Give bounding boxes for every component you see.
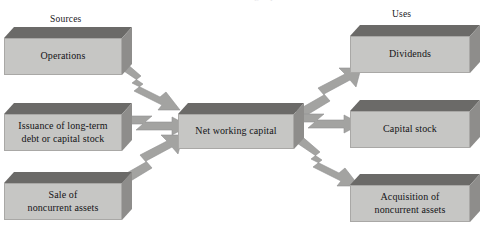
box-label-line: Dividends	[389, 48, 431, 60]
box-top-face	[178, 103, 304, 114]
box-front-face: Dividends	[350, 36, 470, 73]
box-front-face: Acquisition of noncurrent assets	[350, 185, 470, 222]
box-capital-stock[interactable]: Capital stock	[350, 100, 480, 148]
box-front-face: Capital stock	[350, 111, 470, 148]
box-top-face	[4, 103, 132, 114]
box-label-line: Sale of	[28, 189, 99, 201]
box-top-face	[350, 174, 480, 185]
box-top-face	[350, 100, 480, 111]
diagram-canvas: Exhibit · Sources and uses of net workin…	[0, 0, 483, 229]
box-label-line: noncurrent assets	[28, 202, 99, 214]
box-operations[interactable]: Operations	[4, 27, 132, 75]
box-top-face	[350, 25, 480, 36]
box-top-face	[4, 172, 132, 183]
box-top-face	[4, 27, 132, 38]
box-front-face: Sale of noncurrent assets	[4, 183, 122, 220]
box-front-face: Net working capital	[178, 114, 294, 149]
box-net-working-capital[interactable]: Net working capital	[178, 103, 304, 149]
box-sale-noncurrent[interactable]: Sale of noncurrent assets	[4, 172, 132, 220]
box-label-line: Issuance of long-term	[18, 120, 107, 132]
cropped-caption-text: Exhibit · Sources and uses of net workin…	[96, 0, 396, 2]
box-dividends[interactable]: Dividends	[350, 25, 480, 73]
column-heading-uses: Uses	[392, 9, 411, 19]
box-front-face: Issuance of long-term debt or capital st…	[4, 114, 122, 151]
box-label-line: Capital stock	[383, 123, 437, 135]
box-front-face: Operations	[4, 38, 122, 75]
box-label-line: Acquisition of	[375, 191, 446, 203]
column-heading-sources: Sources	[50, 14, 81, 24]
box-label-line: noncurrent assets	[375, 204, 446, 216]
box-label-line: debt or capital stock	[18, 133, 107, 145]
box-acquisition-noncurrent[interactable]: Acquisition of noncurrent assets	[350, 174, 480, 222]
box-label-line: Operations	[41, 50, 86, 62]
box-issuance[interactable]: Issuance of long-term debt or capital st…	[4, 103, 132, 151]
box-label-line: Net working capital	[195, 125, 276, 137]
